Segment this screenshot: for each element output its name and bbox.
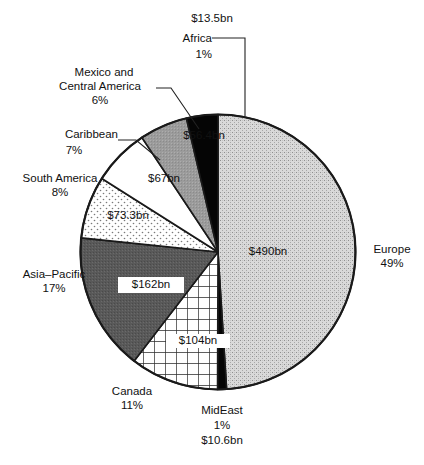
label-africa-value: $13.5bn [160, 12, 264, 26]
label-mideast-value: $10.6bn [182, 434, 262, 448]
pie-slices [81, 115, 356, 390]
label-mexico-name-line1: Mexico and [52, 66, 156, 80]
label-mexico-name-line2: Central America [44, 80, 156, 94]
value-label-europe: $490bn [234, 245, 302, 259]
value-label-south-america: $73.3bn [92, 209, 164, 223]
value-label-asia-pacific: $162bn [118, 277, 184, 293]
label-caribbean-percent: 7% [44, 144, 104, 158]
label-africa-name: Africa [160, 32, 212, 46]
label-south-america-name: South America [12, 172, 108, 186]
label-mideast-percent: 1% [182, 419, 262, 433]
value-label-caribbean: $67bn [134, 172, 194, 186]
label-canada-name: Canada [96, 385, 168, 399]
label-asia-pacific-name: Asia–Pacific [8, 268, 100, 282]
label-caribbean-name: Caribbean [44, 128, 118, 142]
value-label-mexico: $56.4bn [168, 129, 240, 143]
label-europe-percent: 49% [364, 257, 420, 271]
label-africa-percent: 1% [160, 48, 212, 62]
label-europe-name: Europe [364, 243, 420, 257]
label-asia-pacific-percent: 17% [8, 282, 100, 296]
value-label-canada: $104bn [166, 334, 230, 348]
leader-line-africa [212, 38, 245, 116]
label-south-america-percent: 8% [12, 186, 108, 200]
label-mexico-percent: 6% [44, 94, 156, 108]
label-mideast-name: MidEast [182, 404, 262, 418]
label-canada-percent: 11% [96, 399, 168, 413]
pie-chart: $13.5bn Africa 1% Mexico and Central Ame… [0, 0, 424, 465]
